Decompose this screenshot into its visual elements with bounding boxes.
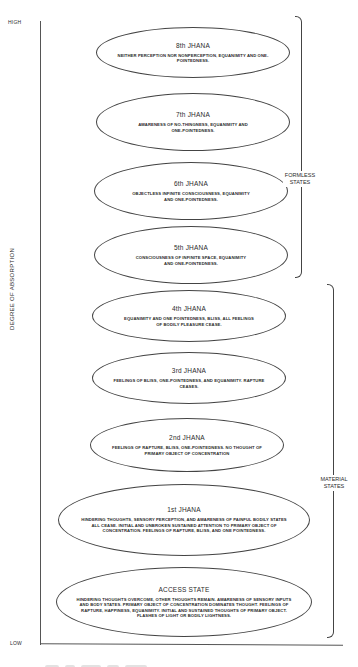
group-label-line: STATES	[315, 483, 353, 490]
state-access: ACCESS STATE HINDERING THOUGHTS OVERCOME…	[56, 567, 312, 637]
state-title: ACCESS STATE	[159, 586, 210, 593]
material-states-label: MATERIAL STATES	[315, 475, 353, 491]
group-label-line: MATERIAL	[315, 476, 353, 483]
group-label-line: FORMLESS	[283, 172, 317, 179]
state-3rd-jhana: 3rd JHANA FEELINGS OF BLISS, ONE-POINTED…	[92, 352, 286, 404]
axis-low-label: LOW	[10, 640, 22, 646]
state-title: 3rd JHANA	[172, 367, 206, 374]
state-desc: AWARENESS OF NO-THINGNESS, EQUANIMITY AN…	[97, 122, 289, 133]
state-title: 6th JHANA	[174, 180, 208, 187]
formless-states-label: FORMLESS STATES	[283, 171, 317, 187]
state-title: 2nd JHANA	[169, 434, 205, 441]
state-6th-jhana: 6th JHANA OBJECTLESS INFINITE CONSCIOUSN…	[94, 162, 288, 220]
state-5th-jhana: 5th JHANA CONSCIOUSNESS OF INFINITE SPAC…	[94, 226, 288, 284]
material-bracket	[327, 284, 334, 638]
state-7th-jhana: 7th JHANA AWARENESS OF NO-THINGNESS, EQU…	[96, 93, 290, 151]
state-desc: OBJECTLESS INFINITE CONSCIOUSNESS, EQUAN…	[95, 191, 287, 202]
figure-caption-faint	[45, 657, 325, 665]
state-desc: NEITHER PERCEPTION NOR NONPERCEPTION, EQ…	[97, 53, 289, 64]
state-title: 1st JHANA	[167, 506, 201, 513]
y-axis-title: DEGREE OF ABSORPTION	[9, 248, 15, 330]
x-axis-line	[40, 643, 343, 646]
state-desc: EQUANIMITY AND ONE POINTEDNESS, BLISS, A…	[93, 316, 285, 327]
state-desc: FEELINGS OF RAPTURE, BLISS, ONE-POINTEDN…	[91, 445, 283, 456]
y-axis-line	[40, 21, 41, 645]
state-4th-jhana: 4th JHANA EQUANIMITY AND ONE POINTEDNESS…	[92, 290, 286, 342]
formless-bracket	[295, 16, 302, 278]
state-desc: CONSCIOUSNESS OF INFINITE SPACE, EQUANIM…	[95, 255, 287, 266]
state-title: 7th JHANA	[176, 111, 210, 118]
state-2nd-jhana: 2nd JHANA FEELINGS OF RAPTURE, BLISS, ON…	[90, 418, 284, 472]
state-title: 4th JHANA	[172, 305, 206, 312]
state-desc: HINDERING THOUGHTS, SENSORY PERCEPTION, …	[59, 517, 309, 534]
state-title: 8th JHANA	[176, 42, 210, 49]
state-1st-jhana: 1st JHANA HINDERING THOUGHTS, SENSORY PE…	[58, 484, 310, 556]
state-title: 5th JHANA	[174, 244, 208, 251]
state-desc: FEELINGS OF BLISS, ONE-POINTEDNESS, AND …	[93, 378, 285, 389]
axis-high-label: HIGH	[8, 19, 21, 25]
state-8th-jhana: 8th JHANA NEITHER PERCEPTION NOR NONPERC…	[96, 27, 290, 78]
group-label-line: STATES	[283, 179, 317, 186]
state-desc: HINDERING THOUGHTS OVERCOME, OTHER THOUG…	[57, 597, 311, 619]
